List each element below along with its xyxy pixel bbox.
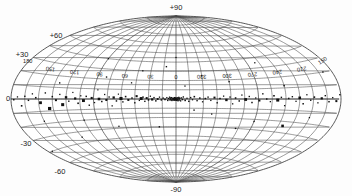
source-marker [131, 97, 133, 99]
source-marker [159, 97, 160, 98]
source-marker [238, 100, 240, 102]
longitude-tick-label: 240 [272, 69, 282, 76]
source-marker [82, 99, 85, 102]
source-marker [171, 100, 173, 102]
source-marker [184, 85, 185, 86]
source-marker [216, 102, 217, 103]
source-marker [21, 105, 23, 107]
source-marker [295, 101, 296, 102]
source-marker [136, 95, 138, 97]
source-marker [225, 99, 227, 101]
source-marker [241, 94, 242, 95]
source-marker [39, 101, 42, 104]
source-marker [210, 100, 211, 101]
source-marker [192, 99, 193, 100]
source-marker [74, 97, 76, 99]
source-marker [339, 94, 340, 95]
longitude-tick-label: 0 [174, 74, 177, 80]
source-marker [142, 96, 144, 98]
source-marker [84, 120, 85, 121]
source-marker [161, 99, 163, 101]
source-marker [213, 97, 215, 99]
source-marker [85, 96, 87, 98]
longitude-tick-label: 330 [197, 74, 206, 80]
source-marker [228, 81, 229, 82]
source-marker [328, 101, 330, 103]
source-marker [253, 121, 254, 122]
source-marker [193, 109, 194, 110]
source-marker [284, 105, 285, 106]
latitude-tick-label: -30 [21, 139, 32, 148]
source-marker [24, 96, 25, 97]
source-marker [262, 93, 263, 94]
source-marker [150, 96, 151, 97]
source-marker [207, 96, 208, 97]
source-marker [65, 96, 67, 98]
source-marker [151, 98, 153, 100]
latitude-tick-label: +90 [170, 3, 183, 12]
source-marker [168, 98, 169, 99]
source-marker [118, 94, 119, 95]
source-marker [322, 71, 323, 72]
source-marker [101, 101, 103, 103]
source-marker [188, 101, 190, 103]
source-marker [178, 99, 180, 101]
latitude-tick-label: -60 [55, 167, 66, 176]
all-sky-map-figure: +90+60+300-30-60-90150120906030033030027… [0, 0, 352, 196]
source-marker [59, 94, 60, 95]
source-marker [77, 102, 79, 104]
source-marker [292, 96, 293, 97]
longitude-tick-label: 180 [23, 58, 32, 64]
source-marker [166, 66, 167, 67]
source-marker [134, 102, 135, 103]
source-marker [13, 99, 15, 101]
source-marker [157, 98, 159, 100]
source-marker [155, 100, 157, 102]
source-marker [310, 100, 311, 101]
source-marker [288, 98, 290, 100]
source-marker [181, 97, 182, 98]
source-marker [281, 125, 284, 128]
source-marker [219, 98, 221, 100]
source-marker [211, 113, 212, 114]
longitude-tick-label: 300 [222, 73, 232, 79]
source-marker [180, 100, 181, 101]
source-marker [273, 95, 275, 97]
source-marker [205, 98, 207, 100]
source-marker [258, 100, 260, 102]
source-marker [196, 100, 197, 101]
source-marker [142, 70, 143, 71]
longitude-tick-label: 90 [96, 71, 103, 77]
source-marker [182, 99, 184, 101]
source-marker [270, 101, 271, 102]
source-marker [184, 100, 186, 102]
source-marker [61, 103, 64, 106]
source-marker [153, 97, 154, 98]
source-marker [175, 57, 176, 58]
source-marker [112, 105, 113, 106]
source-marker [266, 98, 268, 100]
source-marker [97, 89, 98, 90]
source-marker [166, 97, 167, 98]
source-marker [68, 101, 69, 102]
source-marker [82, 137, 83, 138]
source-marker [194, 96, 196, 98]
source-marker [89, 105, 90, 106]
source-marker [159, 126, 160, 127]
source-marker [298, 97, 301, 100]
source-marker [235, 128, 236, 129]
source-marker [94, 102, 95, 103]
longitude-tick-label: 120 [70, 69, 80, 76]
source-marker [113, 96, 115, 98]
source-marker [108, 58, 109, 59]
longitude-tick-label: 270 [248, 71, 258, 78]
source-marker [199, 97, 201, 99]
source-marker [306, 94, 307, 95]
source-marker [335, 100, 337, 102]
source-marker [276, 99, 279, 102]
source-marker [171, 97, 172, 98]
source-marker [223, 95, 224, 96]
source-marker [281, 97, 282, 98]
source-marker [244, 98, 247, 101]
source-marker [229, 96, 230, 97]
